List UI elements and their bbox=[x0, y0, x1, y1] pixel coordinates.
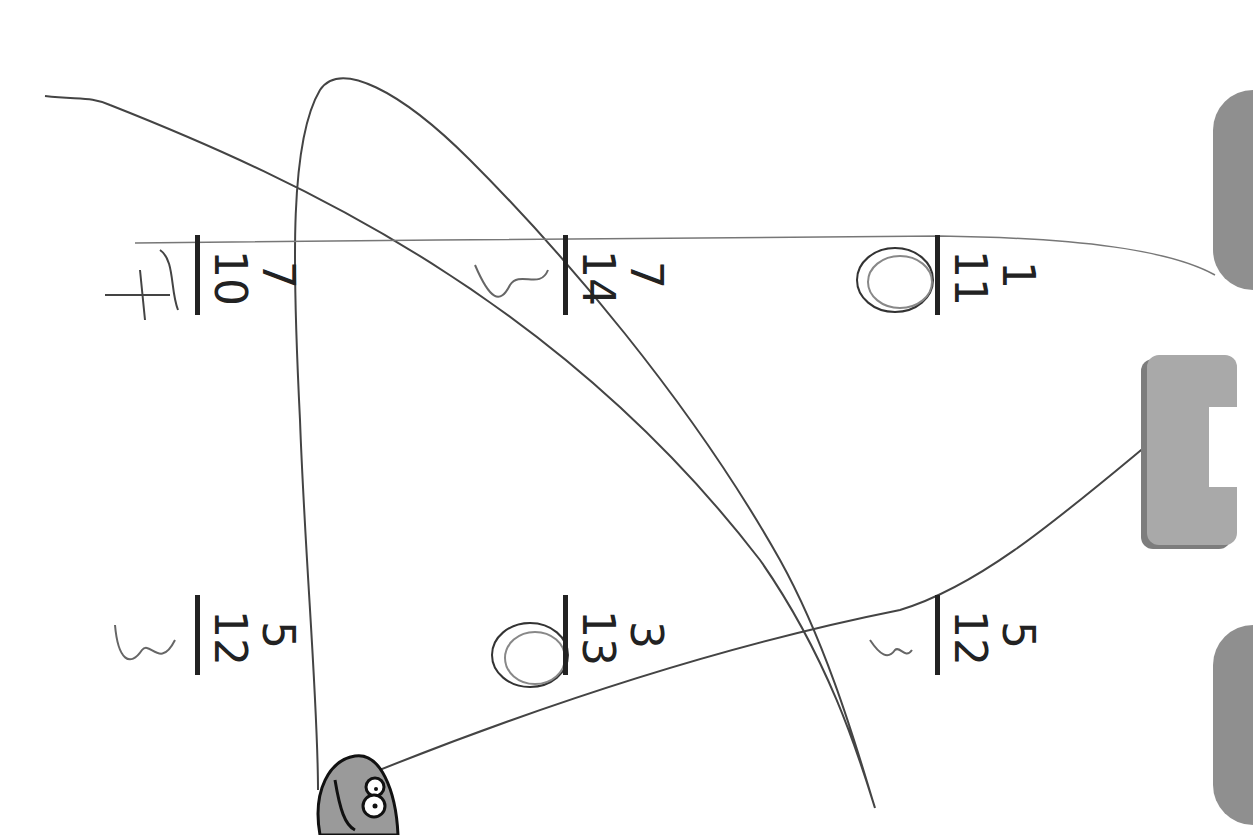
mascot-eye-icon bbox=[366, 778, 384, 796]
